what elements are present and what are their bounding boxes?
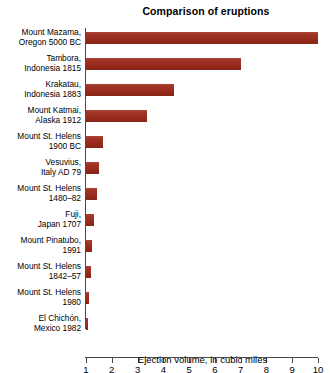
bar (86, 292, 89, 304)
x-axis-tick-label: 9 (282, 364, 302, 373)
category-label: Mount St. Helens 1842–57 (0, 261, 81, 281)
category-label: Vesuvius, Italy AD 79 (0, 157, 81, 177)
x-axis-tick-label: 3 (128, 364, 148, 373)
x-axis-tick-label: 6 (205, 364, 225, 373)
x-axis-tick-label: 1 (76, 364, 96, 373)
category-label: Mount St. Helens 1980 (0, 287, 81, 307)
plot-area: Mount Mazama, Oregon 5000 BCTambora, Ind… (0, 28, 330, 330)
category-label: El Chichón, Mexico 1982 (0, 313, 81, 333)
bar (86, 110, 147, 122)
eruption-comparison-chart: Comparison of eruptions Mount Mazama, Or… (0, 0, 330, 373)
chart-row: El Chichón, Mexico 1982 (0, 316, 330, 342)
bar (86, 188, 97, 200)
category-label: Mount Mazama, Oregon 5000 BC (0, 27, 81, 47)
x-axis-tick-label: 5 (179, 364, 199, 373)
x-axis-label: Ejection volume, in cubic miles (86, 354, 319, 365)
bar (86, 318, 88, 330)
bar (86, 162, 99, 174)
bar (86, 136, 103, 148)
bar (86, 240, 92, 252)
bar (86, 58, 241, 70)
bar (86, 266, 91, 278)
bar (86, 32, 318, 44)
category-label: Tambora, Indonesia 1815 (0, 53, 81, 73)
x-axis-tick-label: 2 (102, 364, 122, 373)
category-label: Krakatau, Indonesia 1883 (0, 79, 81, 99)
category-label: Fuji, Japan 1707 (0, 209, 81, 229)
bar (86, 84, 174, 96)
category-label: Mount Katmai, Alaska 1912 (0, 105, 81, 125)
category-label: Mount St. Helens 1900 BC (0, 131, 81, 151)
x-axis-tick-label: 4 (153, 364, 173, 373)
bar (86, 214, 94, 226)
x-axis-tick-label: 8 (256, 364, 276, 373)
chart-title: Comparison of eruptions (86, 5, 326, 17)
x-axis-tick-label: 10 (308, 364, 328, 373)
x-axis-tick-label: 7 (231, 364, 251, 373)
category-label: Mount St. Helens 1480–82 (0, 183, 81, 203)
category-label: Mount Pinatubo, 1991 (0, 235, 81, 255)
